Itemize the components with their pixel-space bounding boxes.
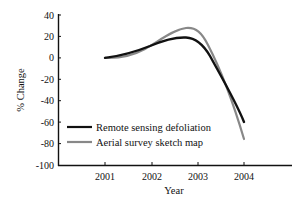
x-tick-label: 2003: [188, 171, 208, 182]
legend: Remote sensing defoliation Aerial survey…: [67, 122, 212, 148]
legend-label: Aerial survey sketch map: [96, 137, 203, 148]
x-tick-label: 2001: [95, 171, 115, 182]
x-tick-label: 2004: [234, 171, 254, 182]
line-chart: 40 20 0 -20 -40 -60 -80 -100 2001 2002 2…: [0, 0, 306, 198]
y-tick-label: 40: [44, 10, 54, 21]
x-ticks: [105, 162, 244, 165]
series-remote-sensing-line: [105, 37, 244, 122]
y-tick-label: -80: [41, 138, 54, 149]
x-tick-labels: 2001 2002 2003 2004: [95, 171, 254, 182]
y-axis-title: % Change: [15, 68, 26, 112]
y-tick-label: -60: [41, 117, 54, 128]
y-tick-label: -100: [36, 160, 54, 171]
legend-item-aerial-survey: Aerial survey sketch map: [67, 137, 203, 148]
legend-item-remote-sensing: Remote sensing defoliation: [67, 122, 212, 133]
y-tick-labels: 40 20 0 -20 -40 -60 -80 -100: [36, 10, 54, 171]
x-tick-label: 2002: [142, 171, 162, 182]
x-axis-title: Year: [164, 185, 184, 196]
y-tick-label: 0: [49, 52, 54, 63]
y-tick-label: -20: [41, 74, 54, 85]
y-tick-label: 20: [44, 31, 54, 42]
legend-label: Remote sensing defoliation: [96, 122, 212, 133]
y-tick-label: -40: [41, 95, 54, 106]
